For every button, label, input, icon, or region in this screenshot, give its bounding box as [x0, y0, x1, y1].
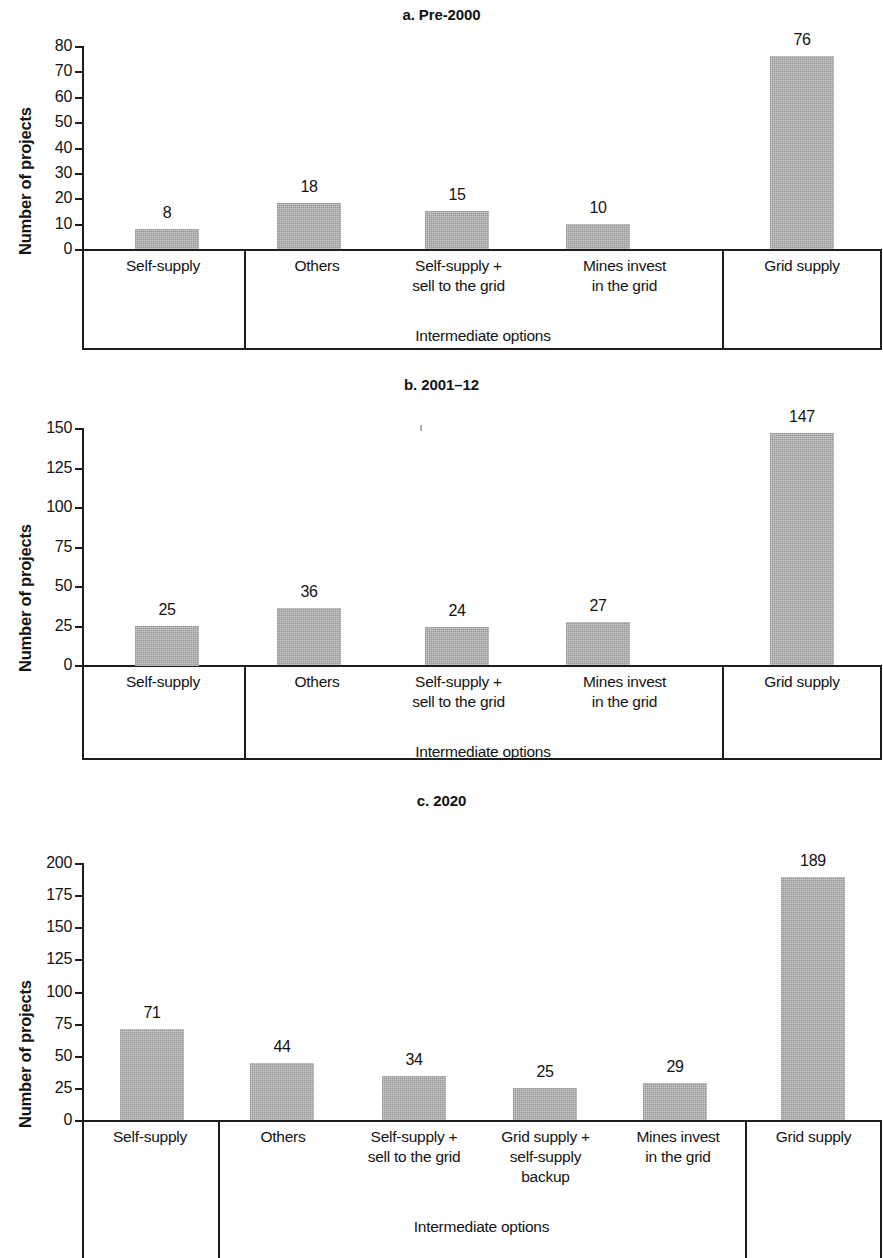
category-label-line: in the grid — [527, 692, 722, 712]
y-tick-label-b-6: 0 — [4, 656, 72, 674]
y-tick-a-4 — [75, 148, 82, 150]
y-axis-line-b — [82, 428, 84, 665]
bar-b-2 — [425, 627, 489, 665]
bar-value-label-c-5: 189 — [763, 852, 863, 870]
category-label-line: Self-supply + — [348, 1127, 480, 1147]
bar-a-2 — [425, 211, 489, 249]
y-tick-label-a-3: 50 — [4, 113, 72, 131]
y-tick-b-5 — [75, 626, 82, 628]
bar-b-4 — [770, 433, 834, 665]
chart-panel-a: a. Pre-2000Number of projects80706050403… — [0, 0, 883, 370]
category-label-line: in the grid — [611, 1147, 745, 1167]
category-label-c-3: Grid supply +self-supplybackup — [480, 1127, 611, 1187]
y-tick-b-2 — [75, 507, 82, 509]
category-label-c-4: Mines investin the grid — [611, 1127, 745, 1167]
y-tick-label-c-2: 150 — [4, 918, 72, 936]
bar-value-label-a-1: 18 — [259, 178, 359, 196]
y-tick-c-2 — [75, 927, 82, 929]
x-axis-baseline-c — [82, 1120, 882, 1122]
category-label-line: Grid supply — [722, 672, 882, 692]
y-tick-label-b-5: 25 — [4, 617, 72, 635]
y-tick-label-c-5: 75 — [4, 1015, 72, 1033]
y-tick-a-5 — [75, 173, 82, 175]
y-tick-label-b-0: 150 — [4, 419, 72, 437]
y-tick-b-6 — [75, 665, 82, 667]
x-axis-baseline-a — [82, 249, 882, 251]
y-tick-label-c-7: 25 — [4, 1079, 72, 1097]
bar-a-3 — [566, 224, 630, 249]
y-tick-a-0 — [75, 46, 82, 48]
bar-value-label-c-4: 29 — [625, 1058, 725, 1076]
bar-a-1 — [277, 203, 341, 249]
y-tick-a-3 — [75, 122, 82, 124]
category-label-line: Others — [218, 1127, 348, 1147]
bar-a-4 — [770, 56, 834, 249]
y-axis-line-c — [82, 863, 84, 1120]
category-label-line: Grid supply — [745, 1127, 882, 1147]
category-label-line: Self-supply — [82, 1127, 218, 1147]
y-tick-c-6 — [75, 1056, 82, 1058]
bar-value-label-a-0: 8 — [117, 204, 217, 222]
y-tick-b-1 — [75, 468, 82, 470]
y-tick-label-b-2: 100 — [4, 498, 72, 516]
category-label-b-3: Mines investin the grid — [527, 672, 722, 712]
y-tick-label-b-3: 75 — [4, 538, 72, 556]
category-label-c-1: Others — [218, 1127, 348, 1147]
y-tick-a-6 — [75, 198, 82, 200]
y-tick-c-7 — [75, 1088, 82, 1090]
category-label-line: Self-supply — [82, 672, 244, 692]
category-label-b-0: Self-supply — [82, 672, 244, 692]
bar-b-0 — [135, 626, 199, 666]
y-tick-c-0 — [75, 863, 82, 865]
category-label-line: Self-supply — [82, 256, 244, 276]
category-label-line: backup — [480, 1167, 611, 1187]
group-caption-c: Intermediate options — [218, 1218, 745, 1236]
scan-artifact-speck — [420, 425, 422, 431]
chart-panel-b: b. 2001–12Number of projects150125100755… — [0, 370, 883, 780]
y-tick-c-3 — [75, 959, 82, 961]
group-caption-a: Intermediate options — [244, 327, 722, 345]
bar-value-label-c-3: 25 — [495, 1063, 595, 1081]
bar-value-label-b-1: 36 — [259, 583, 359, 601]
y-axis-line-a — [82, 46, 84, 249]
bar-a-0 — [135, 229, 199, 249]
y-tick-a-2 — [75, 97, 82, 99]
bar-value-label-a-2: 15 — [407, 186, 507, 204]
y-tick-b-0 — [75, 428, 82, 430]
y-tick-label-b-4: 50 — [4, 577, 72, 595]
category-label-c-2: Self-supply +sell to the grid — [348, 1127, 480, 1167]
bar-c-2 — [382, 1076, 446, 1120]
y-tick-label-c-6: 50 — [4, 1047, 72, 1065]
y-tick-label-c-1: 175 — [4, 886, 72, 904]
panel-title-b: b. 2001–12 — [0, 376, 883, 393]
y-tick-label-c-4: 100 — [4, 983, 72, 1001]
category-label-a-4: Grid supply — [722, 256, 882, 276]
category-label-b-1: Others — [244, 672, 390, 692]
bar-value-label-a-3: 10 — [548, 199, 648, 217]
category-label-line: Self-supply + — [390, 256, 527, 276]
bar-value-label-c-0: 71 — [102, 1004, 202, 1022]
category-label-c-5: Grid supply — [745, 1127, 882, 1147]
bar-value-label-c-1: 44 — [232, 1038, 332, 1056]
bar-value-label-b-3: 27 — [548, 597, 648, 615]
category-box-bottom-a — [82, 348, 882, 350]
y-tick-label-b-1: 125 — [4, 459, 72, 477]
y-tick-b-3 — [75, 547, 82, 549]
y-tick-b-4 — [75, 586, 82, 588]
bar-c-3 — [513, 1088, 577, 1120]
y-tick-label-a-0: 80 — [4, 37, 72, 55]
y-tick-label-a-1: 70 — [4, 62, 72, 80]
bar-value-label-c-2: 34 — [364, 1051, 464, 1069]
y-tick-label-c-3: 125 — [4, 950, 72, 968]
category-label-line: Mines invest — [527, 256, 722, 276]
y-tick-label-a-8: 0 — [4, 240, 72, 258]
y-tick-c-1 — [75, 895, 82, 897]
bar-value-label-b-4: 147 — [752, 408, 852, 426]
bar-c-4 — [643, 1083, 707, 1120]
category-label-line: Self-supply + — [390, 672, 527, 692]
bar-c-0 — [120, 1029, 184, 1120]
category-label-c-0: Self-supply — [82, 1127, 218, 1147]
bar-b-1 — [277, 608, 341, 665]
category-label-line: Others — [244, 672, 390, 692]
bar-c-1 — [250, 1063, 314, 1120]
